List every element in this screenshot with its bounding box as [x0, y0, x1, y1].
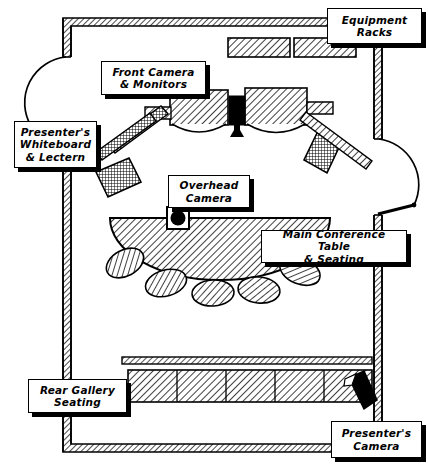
callout-equipment-racks[interactable]: Equipment Racks: [327, 8, 422, 44]
callout-label: Presenter's Camera: [342, 427, 412, 452]
callout-label: Overhead Camera: [180, 179, 239, 204]
callout-presenters-whiteboard-lectern[interactable]: Presenter's Whiteboard & Lectern: [14, 121, 97, 168]
callout-label: Main Conference Table & Seating: [266, 228, 402, 265]
chair: [191, 279, 234, 307]
callout-rear-gallery-seating[interactable]: Rear Gallery Seating: [28, 379, 127, 413]
callout-label: Equipment Racks: [342, 14, 408, 39]
callout-main-conference-table-seating[interactable]: Main Conference Table & Seating: [261, 230, 407, 263]
left-door-swing: [25, 57, 67, 131]
rear-gallery-rail: [122, 357, 372, 364]
presenter-whiteboard: [96, 106, 168, 160]
presenter-lectern: [96, 158, 141, 197]
front-monitor: [245, 88, 307, 133]
chair: [237, 275, 281, 305]
callout-label: Front Camera & Monitors: [112, 66, 194, 91]
callout-overhead-camera[interactable]: Overhead Camera: [168, 175, 250, 208]
callout-label: Presenter's Whiteboard & Lectern: [20, 126, 91, 163]
equipment-rack: [228, 38, 290, 57]
front-monitor: [170, 90, 228, 132]
callout-front-camera-monitors[interactable]: Front Camera & Monitors: [101, 61, 206, 95]
rear-gallery-bench: [128, 370, 372, 402]
callout-presenters-camera[interactable]: Presenter's Camera: [331, 421, 422, 458]
front-camera: [229, 96, 245, 137]
callout-label: Rear Gallery Seating: [40, 384, 115, 409]
floor-plan-diagram: Equipment Racks Front Camera & Monitors …: [0, 0, 428, 466]
overhead-camera-marker: [167, 207, 189, 229]
side-cabinet: [307, 102, 333, 114]
right-door-swing: [378, 139, 419, 214]
